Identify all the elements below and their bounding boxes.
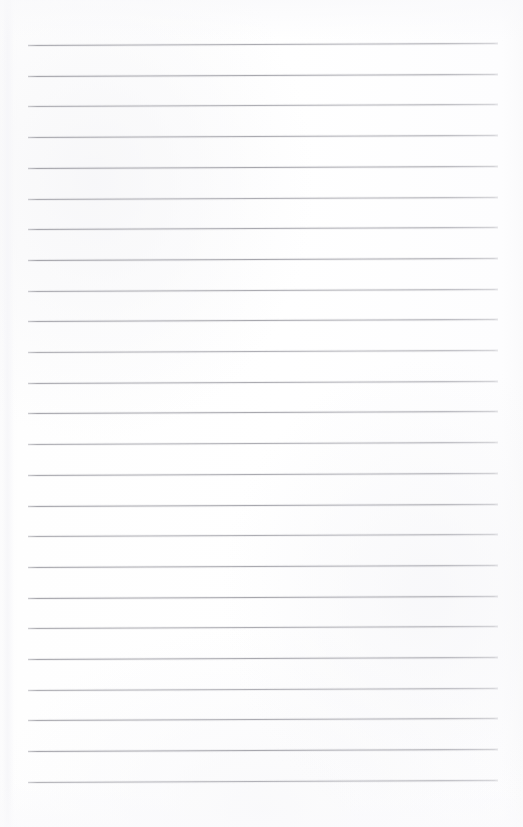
ruled-line bbox=[28, 227, 498, 230]
ruled-line bbox=[28, 596, 498, 599]
ruled-line bbox=[28, 74, 498, 77]
ruled-line bbox=[28, 135, 498, 138]
ruled-line bbox=[28, 565, 498, 568]
ruled-line bbox=[28, 289, 498, 292]
ruled-lines-layer bbox=[0, 0, 523, 827]
ruled-line bbox=[28, 718, 498, 721]
ruled-line bbox=[28, 350, 498, 353]
ruled-line bbox=[28, 43, 498, 46]
ruled-line bbox=[28, 381, 498, 384]
ruled-line bbox=[28, 258, 498, 261]
ruled-line bbox=[28, 166, 498, 169]
ruled-line bbox=[28, 319, 498, 322]
ruled-line bbox=[28, 503, 498, 506]
ruled-line bbox=[28, 442, 498, 445]
ruled-line bbox=[28, 473, 498, 476]
ruled-line bbox=[28, 657, 498, 660]
ruled-line bbox=[28, 780, 498, 783]
notebook-page bbox=[0, 0, 523, 827]
ruled-line bbox=[28, 534, 498, 537]
ruled-line bbox=[28, 104, 498, 107]
ruled-line bbox=[28, 411, 498, 414]
ruled-line bbox=[28, 196, 498, 199]
ruled-line bbox=[28, 749, 498, 752]
ruled-line bbox=[28, 626, 498, 629]
ruled-line bbox=[28, 688, 498, 691]
